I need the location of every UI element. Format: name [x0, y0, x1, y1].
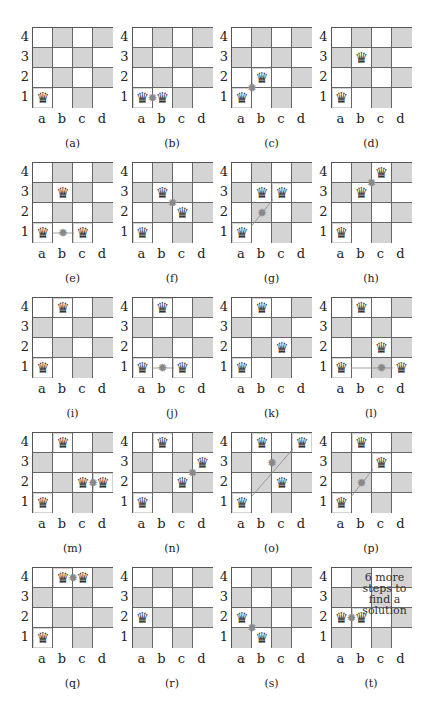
- square-c4: [372, 28, 392, 48]
- square-b2: [252, 473, 272, 493]
- rank-label: 3: [19, 317, 29, 337]
- square-d4: [292, 298, 312, 318]
- board-panel-m: ♛♛♛♛✹4321abcd(m): [32, 432, 132, 566]
- square-a3: [133, 453, 153, 473]
- square-b1: [352, 88, 372, 108]
- file-label: b: [152, 516, 172, 531]
- square-a4: [232, 28, 252, 48]
- square-d1: [392, 628, 412, 648]
- file-label: d: [192, 651, 212, 666]
- square-a4: [33, 28, 53, 48]
- file-label: b: [251, 651, 271, 666]
- square-c4: [272, 433, 292, 453]
- file-label: b: [251, 516, 271, 531]
- board-panel-b: ♛♛✹4321abcd(b): [132, 27, 232, 161]
- square-b1: [252, 358, 272, 378]
- square-d2: [392, 338, 412, 358]
- board-panel-h: ♛♛♛✹4321abcd(h): [331, 162, 431, 296]
- square-d4: [392, 433, 412, 453]
- square-b3: [252, 48, 272, 68]
- conflict-burst-icon: ✹: [246, 622, 258, 634]
- file-label: b: [152, 111, 172, 126]
- rank-label: 4: [19, 27, 29, 47]
- rank-label: 1: [318, 492, 328, 512]
- square-b2: [53, 608, 73, 628]
- square-d1: [392, 493, 412, 513]
- chess-board: ♛♛♛♛✹: [231, 432, 312, 513]
- square-d1: [292, 358, 312, 378]
- rank-label: 3: [119, 587, 129, 607]
- queen-icon: ♛: [273, 184, 291, 202]
- file-label: b: [251, 246, 271, 261]
- square-c3: [372, 48, 392, 68]
- panel-caption: (p): [331, 542, 412, 555]
- square-c4: [73, 298, 93, 318]
- square-d4: [93, 163, 113, 183]
- square-c3: [272, 588, 292, 608]
- file-label: a: [231, 381, 251, 396]
- square-d4: [193, 28, 213, 48]
- rank-label: 1: [119, 357, 129, 377]
- square-d3: [392, 183, 412, 203]
- file-label: c: [72, 381, 92, 396]
- conflict-burst-icon: ✹: [147, 92, 159, 104]
- square-b3: [252, 318, 272, 338]
- square-c4: [272, 28, 292, 48]
- square-c1: [272, 88, 292, 108]
- square-c1: [372, 493, 392, 513]
- file-label: a: [331, 111, 351, 126]
- file-label: b: [251, 111, 271, 126]
- square-d4: [392, 28, 412, 48]
- square-a4: [133, 433, 153, 453]
- square-d2: [93, 68, 113, 88]
- square-a4: [33, 298, 53, 318]
- rank-label: 3: [218, 182, 228, 202]
- square-c4: [173, 568, 193, 588]
- chess-board: ♛♛✹: [231, 567, 312, 648]
- square-d2: [292, 203, 312, 223]
- panel-caption: (i): [32, 407, 113, 420]
- square-a3: [133, 48, 153, 68]
- queen-icon: ♛: [174, 359, 192, 377]
- conflict-burst-icon: ✹: [356, 477, 368, 489]
- rank-label: 4: [218, 297, 228, 317]
- square-b3: [153, 588, 173, 608]
- square-d2: [93, 338, 113, 358]
- file-label: a: [331, 246, 351, 261]
- file-label: c: [172, 651, 192, 666]
- file-label: d: [291, 111, 311, 126]
- file-label: c: [172, 381, 192, 396]
- chess-board: ♛♛♛✹: [331, 162, 412, 243]
- queen-icon: ♛: [134, 494, 152, 512]
- square-d3: [392, 453, 412, 473]
- file-label: a: [231, 651, 251, 666]
- square-c2: [173, 68, 193, 88]
- square-a2: [332, 203, 352, 223]
- queen-icon: ♛: [74, 224, 92, 242]
- square-c3: [73, 453, 93, 473]
- square-c4: [272, 568, 292, 588]
- square-b3: [53, 453, 73, 473]
- square-d4: [193, 568, 213, 588]
- board-panel-q: ♛♛♛✹4321abcd(q): [32, 567, 132, 701]
- square-a4: [232, 568, 252, 588]
- square-b4: [252, 568, 272, 588]
- board-panel-o: ♛♛♛♛✹4321abcd(o): [231, 432, 331, 566]
- square-a3: [332, 48, 352, 68]
- square-d3: [292, 588, 312, 608]
- square-c4: [73, 433, 93, 453]
- square-c3: [372, 318, 392, 338]
- queen-icon: ♛: [333, 224, 351, 242]
- square-c1: [272, 628, 292, 648]
- square-d3: [93, 588, 113, 608]
- square-b1: [352, 493, 372, 513]
- panel-caption: (b): [132, 137, 213, 150]
- conflict-burst-icon: ✹: [266, 457, 278, 469]
- square-c1: [73, 358, 93, 378]
- queen-icon: ♛: [253, 184, 271, 202]
- square-d2: [292, 608, 312, 628]
- square-a2: [332, 338, 352, 358]
- square-d3: [292, 183, 312, 203]
- panel-caption: (q): [32, 677, 113, 690]
- file-label: b: [52, 246, 72, 261]
